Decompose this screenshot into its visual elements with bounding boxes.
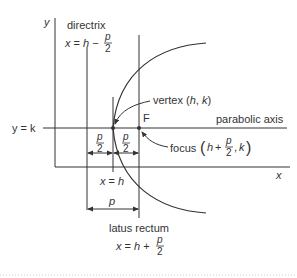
- y-eq-k-label: y = k: [12, 122, 36, 134]
- p-label: p: [108, 195, 115, 207]
- x-axis-label: x: [275, 169, 282, 181]
- focus-point-label: F: [143, 112, 150, 124]
- parabolic-axis-label: parabolic axis: [216, 113, 284, 125]
- latus-frac-num: p: [156, 234, 163, 245]
- latus-rectum-label: latus rectum: [109, 222, 169, 234]
- directrix-frac-den: 2: [105, 43, 111, 54]
- y-axis-label: y: [43, 16, 51, 28]
- p-half-left-den: 2: [97, 143, 103, 154]
- x-eq-h-label: x = h: [99, 175, 124, 187]
- focus-plus: +: [215, 141, 221, 153]
- directrix-label: directrix: [67, 19, 106, 31]
- parabola-diagram: y x y = k parabolic axis directrix x = h…: [0, 0, 297, 278]
- focus-leader: [142, 132, 168, 147]
- p-half-left-num: p: [96, 131, 103, 142]
- p-half-right-den: 2: [123, 143, 129, 154]
- p-half-right-num: p: [122, 131, 129, 142]
- latus-rectum-equation: x = h +: [115, 240, 150, 252]
- focus-coordinates-open: (: [200, 139, 206, 156]
- focus-frac-num: p: [225, 135, 232, 146]
- directrix-frac-num: p: [104, 31, 111, 42]
- focus-point: [137, 126, 141, 130]
- vertex-label: vertex (h, k): [153, 94, 211, 106]
- focus-frac-den: 2: [226, 147, 232, 158]
- focus-label: focus: [170, 142, 197, 154]
- directrix-equation: x = h −: [64, 37, 99, 49]
- vertex-point: [111, 126, 115, 130]
- focus-comma: ,: [234, 141, 237, 153]
- focus-h: h: [207, 141, 213, 153]
- focus-k: k: [239, 141, 245, 153]
- focus-coordinates-close: ): [246, 139, 251, 156]
- latus-frac-den: 2: [157, 246, 163, 257]
